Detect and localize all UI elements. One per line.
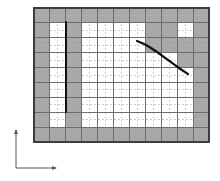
grid-domain-diagram <box>0 0 220 181</box>
figure-root <box>0 0 220 181</box>
